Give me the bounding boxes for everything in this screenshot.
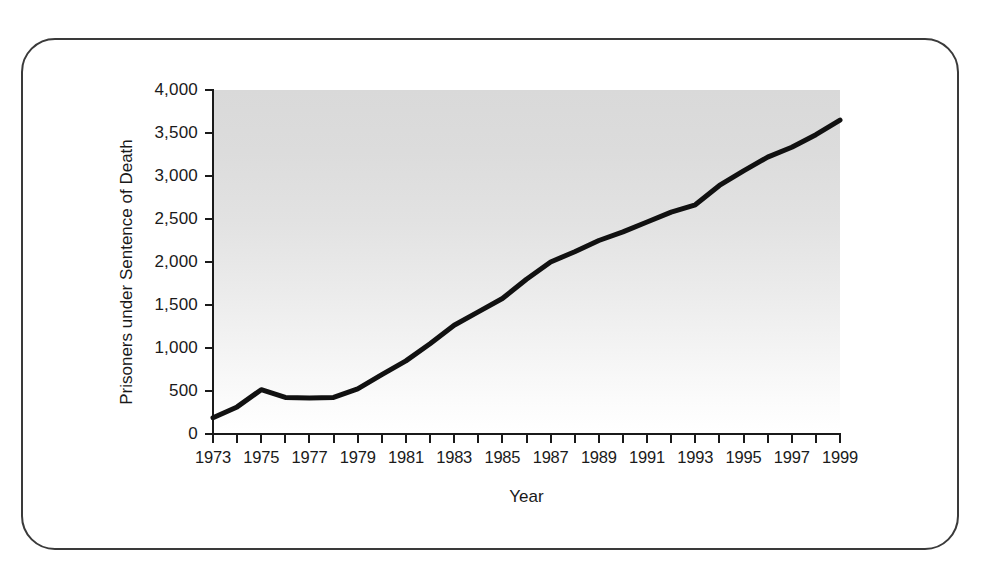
x-axis-tick (260, 435, 262, 443)
line-chart: 05001,0001,5002,0002,5003,0003,5004,000 … (0, 0, 981, 581)
x-axis-tick (767, 435, 769, 443)
data-series-line (213, 90, 840, 434)
x-axis-tick (622, 435, 624, 443)
x-axis-tick-label: 1975 (235, 448, 287, 466)
x-axis-tick (501, 435, 503, 443)
x-axis-tick (381, 435, 383, 443)
x-axis-tick-label: 1989 (573, 448, 625, 466)
y-axis-title: Prisoners under Sentence of Death (117, 107, 137, 437)
x-axis-tick (405, 435, 407, 443)
x-axis-tick (429, 435, 431, 443)
x-axis-tick (357, 435, 359, 443)
x-axis-tick-label: 1973 (187, 448, 239, 466)
x-axis-tick (236, 435, 238, 443)
series-path (213, 120, 840, 418)
x-axis-tick (815, 435, 817, 443)
y-axis-tick-label: 4,000 (120, 81, 198, 98)
x-axis-tick-label: 1981 (380, 448, 432, 466)
x-axis-tick (308, 435, 310, 443)
x-axis-tick (453, 435, 455, 443)
y-axis-tick (205, 347, 213, 349)
x-axis-tick-label: 1991 (621, 448, 673, 466)
x-axis-tick (670, 435, 672, 443)
x-axis-tick (718, 435, 720, 443)
y-axis-tick (205, 175, 213, 177)
x-axis-title: Year (213, 487, 840, 507)
x-axis-tick-label: 1999 (814, 448, 866, 466)
x-axis-tick-label: 1993 (669, 448, 721, 466)
x-axis-tick (694, 435, 696, 443)
y-axis-tick (205, 89, 213, 91)
x-axis-tick (284, 435, 286, 443)
y-axis-tick (205, 390, 213, 392)
x-axis-tick (212, 435, 214, 443)
x-axis-tick (333, 435, 335, 443)
y-axis-tick (205, 218, 213, 220)
x-axis-tick (598, 435, 600, 443)
x-axis-tick-label: 1977 (283, 448, 335, 466)
y-axis-tick (205, 304, 213, 306)
x-axis-tick (526, 435, 528, 443)
x-axis-tick (646, 435, 648, 443)
x-axis-tick (839, 435, 841, 443)
x-axis-tick (477, 435, 479, 443)
x-axis-tick-label: 1997 (766, 448, 818, 466)
x-axis-tick-label: 1987 (525, 448, 577, 466)
x-axis-tick (743, 435, 745, 443)
x-axis-tick (574, 435, 576, 443)
x-axis-tick-label: 1979 (332, 448, 384, 466)
figure-container: 05001,0001,5002,0002,5003,0003,5004,000 … (0, 0, 981, 581)
y-axis-tick (205, 132, 213, 134)
x-axis-tick (550, 435, 552, 443)
x-axis-tick-label: 1985 (476, 448, 528, 466)
y-axis-tick (205, 261, 213, 263)
x-axis-tick (791, 435, 793, 443)
x-axis-tick-label: 1983 (428, 448, 480, 466)
x-axis-tick-label: 1995 (718, 448, 770, 466)
